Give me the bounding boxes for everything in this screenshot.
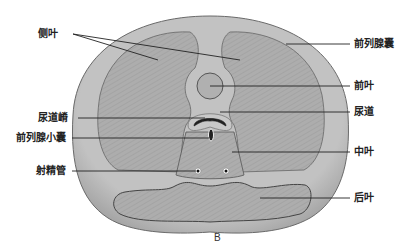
label-median-lobe: 中叶 (354, 146, 374, 158)
label-prostatic-utricle: 前列腺小囊 (16, 132, 66, 144)
prostatic-utricle (209, 129, 214, 141)
label-posterior-lobe: 后叶 (354, 192, 374, 204)
label-urethral-crest: 尿道嵴 (38, 112, 68, 124)
label-urethra: 尿道 (354, 106, 374, 118)
panel-label: B (214, 232, 221, 243)
label-anterior-lobe: 前叶 (354, 80, 374, 92)
prostate-cross-section (0, 0, 407, 248)
label-prostatic-capsule: 前列腺囊 (354, 38, 394, 50)
label-lateral-lobe: 侧叶 (38, 28, 58, 40)
label-ejaculatory-duct: 射精管 (36, 165, 66, 177)
